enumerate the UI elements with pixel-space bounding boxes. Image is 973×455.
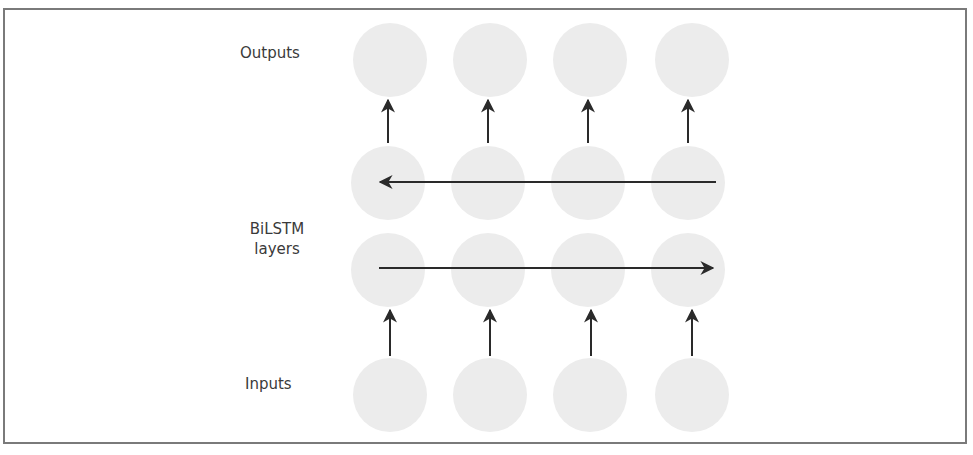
output-node-4 <box>655 23 729 97</box>
input-node-4 <box>655 358 729 432</box>
input-node-2 <box>453 358 527 432</box>
input-nodes <box>353 358 729 432</box>
up-arrows-to-outputs <box>388 100 688 143</box>
forward-node-2 <box>451 233 525 307</box>
input-node-3 <box>553 358 627 432</box>
forward-node-3 <box>551 233 625 307</box>
output-node-1 <box>353 23 427 97</box>
bilstm-diagram <box>0 0 973 455</box>
forward-node-1 <box>351 233 425 307</box>
output-nodes <box>353 23 729 97</box>
input-node-1 <box>353 358 427 432</box>
output-node-2 <box>453 23 527 97</box>
forward-lstm-nodes <box>351 233 725 307</box>
forward-node-4 <box>651 233 725 307</box>
output-node-3 <box>553 23 627 97</box>
up-arrows-from-inputs <box>390 310 692 356</box>
